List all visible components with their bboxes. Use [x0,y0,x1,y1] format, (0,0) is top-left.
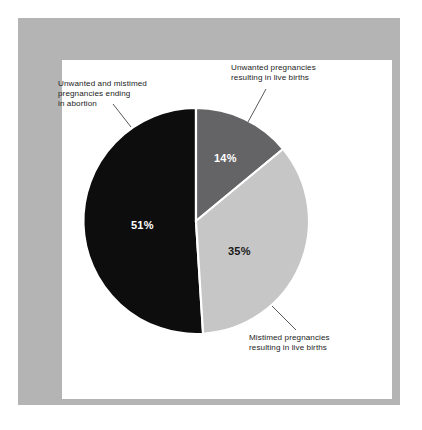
callout-label-abortion-line1: Unwanted and mistimed [58,79,147,89]
callout-label-mistimed-line1: Mistimed pregnancies [249,333,330,343]
pie-value-unwanted-live-births: 14% [214,152,237,164]
callout-label-abortion-line3: in abortion [58,99,147,109]
figure-frame [18,18,400,405]
callout-label-mistimed-line2: resulting in live births [249,343,330,353]
callout-label-unwanted-live-births: Unwanted pregnancies resulting in live b… [231,63,316,83]
callout-label-unwanted-line1: Unwanted pregnancies [231,63,316,73]
callout-label-abortion: Unwanted and mistimed pregnancies ending… [58,79,147,110]
pie-value-mistimed-live-births: 35% [228,245,251,257]
pie-value-abortion: 51% [131,219,154,231]
chart-plot-area [62,60,392,399]
callout-label-abortion-line2: pregnancies ending [58,89,147,99]
callout-label-mistimed-live-births: Mistimed pregnancies resulting in live b… [249,333,330,353]
callout-label-unwanted-line2: resulting in live births [231,73,316,83]
